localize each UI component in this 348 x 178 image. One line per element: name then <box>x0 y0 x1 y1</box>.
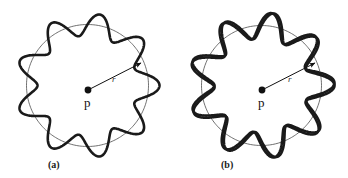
panel-b: p r (b) <box>174 0 348 178</box>
reference-circle-b <box>202 26 322 146</box>
wavy-curve-a <box>20 15 160 157</box>
center-label-a: p <box>84 95 91 111</box>
center-point-a <box>85 87 92 94</box>
radius-label-b: r <box>288 74 292 84</box>
panel-a-drawing <box>0 0 174 178</box>
reference-circle-a <box>27 25 149 147</box>
panel-a: p r (a) <box>0 0 174 178</box>
panel-b-drawing <box>174 0 348 178</box>
caption-a: (a) <box>48 159 60 170</box>
figure-container: p r (a) p r (b) <box>0 0 348 178</box>
center-label-b: p <box>258 95 265 111</box>
caption-b: (b) <box>221 159 233 170</box>
radius-label-a: r <box>112 74 116 84</box>
center-point-b <box>259 87 266 94</box>
